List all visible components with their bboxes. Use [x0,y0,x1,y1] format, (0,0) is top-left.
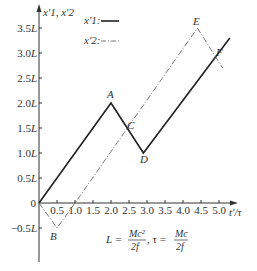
point-D: D [139,153,148,165]
svg-text:Mc²: Mc² [128,228,146,239]
svg-text:Mc: Mc [174,228,188,239]
svg-text:3.0L: 3.0L [17,47,37,59]
x-axis-title: t'/τ [229,206,242,218]
chart: 3.5L 3.0L 2.5L 2.0L 1.5L 1.0L 0.5L 0 −0.… [0,0,257,271]
y-tick-labels: 3.5L 3.0L 2.5L 2.0L 1.5L 1.0L 0.5L 0 −0.… [11,22,37,234]
svg-text:1.0L: 1.0L [17,147,37,159]
svg-text:2.0L: 2.0L [17,97,37,109]
formula: L = Mc² 2f , τ = Mc 2f [105,228,188,252]
svg-text:1.5: 1.5 [86,204,100,216]
svg-text:1.0: 1.0 [68,204,82,216]
point-E: E [192,15,200,27]
svg-text:1.5L: 1.5L [17,122,37,134]
y-axis-arrow-icon [37,4,42,12]
y-axis-title: x'1, x'2 [42,6,74,18]
svg-text:2f: 2f [131,241,140,252]
point-C: C [127,119,135,131]
svg-text:, τ =: , τ = [147,233,166,245]
svg-text:L =: L = [105,233,122,245]
svg-text:5.0: 5.0 [212,204,226,216]
svg-text:0.5: 0.5 [50,204,64,216]
point-F: F [215,46,223,58]
svg-text:4.5: 4.5 [194,204,208,216]
svg-text:−0.5L: −0.5L [11,222,37,234]
svg-text:2.5L: 2.5L [17,72,37,84]
svg-text:3.5L: 3.5L [17,22,37,34]
svg-text:2f: 2f [176,241,185,252]
svg-text:4.0: 4.0 [176,204,190,216]
svg-text:0.5L: 0.5L [17,172,37,184]
svg-text:3.0: 3.0 [140,204,154,216]
legend-label-x2: x'2: [83,34,100,46]
series-x1-line [39,38,230,203]
svg-text:2.0: 2.0 [104,204,118,216]
svg-text:0: 0 [31,197,37,209]
svg-text:2.5: 2.5 [122,204,136,216]
x-axis-arrow-icon [230,201,238,206]
svg-text:3.5: 3.5 [158,204,172,216]
legend-label-x1: x'1: [83,14,100,26]
x-tick-labels: 0.5 1.0 1.5 2.0 2.5 3.0 3.5 4.0 4.5 5.0 [50,204,226,216]
point-A: A [106,88,114,100]
point-B: B [50,230,57,242]
